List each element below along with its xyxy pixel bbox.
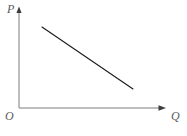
x-axis-label: Q — [171, 110, 180, 122]
y-axis-arrow-icon — [16, 7, 21, 14]
demand-curve-line — [42, 27, 133, 89]
x-axis-arrow-icon — [159, 105, 167, 111]
figure-canvas — [0, 0, 187, 136]
origin-label: O — [5, 110, 14, 122]
y-axis-label: P — [7, 3, 14, 15]
demand-curve-figure: P O Q — [0, 0, 187, 136]
